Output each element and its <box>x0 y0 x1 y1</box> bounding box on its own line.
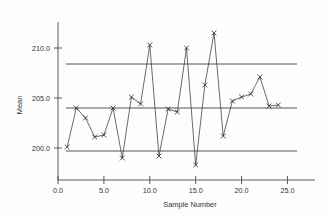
data-point-marker <box>248 92 253 97</box>
mean-series-line <box>67 33 278 165</box>
chart-canvas: 200.0205.0210.0 0.05.010.015.020.025.0 M… <box>0 0 327 217</box>
data-point-marker <box>230 99 235 104</box>
x-tick-label: 10.0 <box>143 186 157 195</box>
y-tick-label: 210.0 <box>32 44 50 53</box>
data-point-marker <box>65 145 70 150</box>
x-tick-label: 25.0 <box>280 186 294 195</box>
x-tick-label: 15.0 <box>189 186 203 195</box>
data-point-marker <box>83 116 88 121</box>
x-axis-tick-labels: 0.05.010.015.020.025.0 <box>53 186 294 195</box>
y-axis-tick-labels: 200.0205.0210.0 <box>32 44 50 153</box>
y-axis-title: Mean <box>15 96 24 115</box>
data-point-marker <box>239 95 244 100</box>
y-tick-label: 200.0 <box>32 144 50 153</box>
x-tick-label: 5.0 <box>99 186 109 195</box>
data-point-marker <box>258 75 263 80</box>
x-tick-label: 20.0 <box>235 186 249 195</box>
x-tick-label: 0.0 <box>53 186 63 195</box>
x-axis-title: Sample Number <box>163 200 217 209</box>
plot-area <box>54 22 315 184</box>
control-limit-lines <box>66 64 297 151</box>
control-chart: 200.0205.0210.0 0.05.010.015.020.025.0 M… <box>0 0 327 217</box>
y-tick-label: 205.0 <box>32 94 50 103</box>
mean-series-markers <box>65 31 281 168</box>
